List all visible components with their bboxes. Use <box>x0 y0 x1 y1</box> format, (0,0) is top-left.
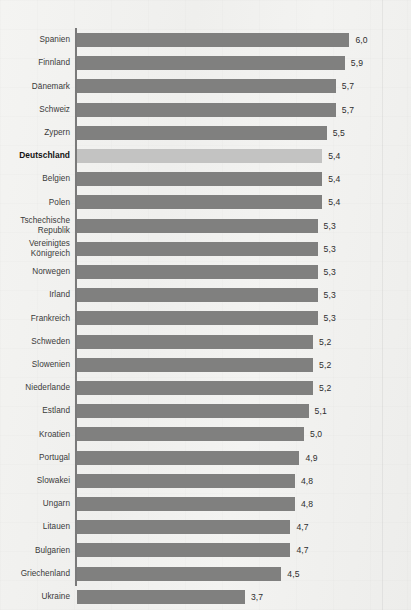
bar-value-label: 5,3 <box>324 214 336 238</box>
bar-category-label: Finnland <box>0 51 70 75</box>
bar-category-label: Spanien <box>0 28 70 52</box>
bar-row: Polen5,4 <box>0 190 411 214</box>
bar-category-label: Norwegen <box>0 260 70 284</box>
bar-category-label-line: Dänemark <box>32 82 70 92</box>
bar-category-label-line: Portugal <box>39 453 70 463</box>
bar <box>77 474 295 488</box>
bar-value-label: 5,4 <box>328 190 340 214</box>
bar <box>77 335 313 349</box>
bar <box>77 103 336 117</box>
bar-category-label-line: Vereinigtes <box>29 239 70 249</box>
bar <box>77 288 318 302</box>
bar-value-label: 4,8 <box>301 492 313 516</box>
bar-category-label: Irland <box>0 283 70 307</box>
bar <box>77 242 318 256</box>
bar-category-label-line: Litauen <box>43 522 70 532</box>
bar-category-label: Kroatien <box>0 422 70 446</box>
bar-category-label-line: Estland <box>42 406 70 416</box>
bar-category-label: Slowakei <box>0 469 70 493</box>
bar <box>77 404 309 418</box>
bar-value-label: 5,3 <box>324 306 336 330</box>
bar <box>77 126 327 140</box>
bar <box>77 567 281 581</box>
bar-category-label-line: Ungarn <box>43 499 70 509</box>
bar-row: Belgien5,4 <box>0 167 411 191</box>
bar-value-label: 5,3 <box>324 237 336 261</box>
bar <box>77 195 322 209</box>
bar-category-label-line: Finnland <box>38 58 70 68</box>
bar-category-label: Polen <box>0 190 70 214</box>
bar-category-label-line: Bulgarien <box>35 546 70 556</box>
bar-category-label-line: Deutschland <box>19 151 70 161</box>
bar-row: Norwegen5,3 <box>0 260 411 284</box>
bar <box>77 311 318 325</box>
bar-row: Ungarn4,8 <box>0 492 411 516</box>
bar-category-label-line: Republik <box>38 226 70 236</box>
bar-row: Slowenien5,2 <box>0 353 411 377</box>
bar-category-label: Schweden <box>0 330 70 354</box>
bar-category-label-line: Norwegen <box>32 267 70 277</box>
bar-category-label: Belgien <box>0 167 70 191</box>
bar-category-label: Bulgarien <box>0 538 70 562</box>
bar-category-label-line: Polen <box>49 198 70 208</box>
bar-category-label-line: Slowenien <box>32 360 70 370</box>
bar <box>77 172 322 186</box>
bar-category-label: Frankreich <box>0 306 70 330</box>
bar-value-label: 5,4 <box>328 167 340 191</box>
bar-value-label: 5,3 <box>324 260 336 284</box>
bar-category-label-line: Zypern <box>44 128 70 138</box>
bar-row: Spanien6,0 <box>0 28 411 52</box>
bar-value-label: 5,1 <box>315 399 327 423</box>
bar-value-label: 5,7 <box>342 98 354 122</box>
bar-value-label: 4,9 <box>305 446 317 470</box>
bar <box>77 219 318 233</box>
bar-value-label: 5,2 <box>319 376 331 400</box>
bar-row: Estland5,1 <box>0 399 411 423</box>
bar <box>77 497 295 511</box>
bar-category-label-line: Irland <box>49 290 70 300</box>
bar-row: Ukraine3,7 <box>0 585 411 609</box>
bar <box>77 590 245 604</box>
bar-category-label: VereinigtesKönigreich <box>0 237 70 261</box>
bar <box>77 520 290 534</box>
bar-category-label: Zypern <box>0 121 70 145</box>
bar-row: Finnland5,9 <box>0 51 411 75</box>
bar-category-label: Dänemark <box>0 74 70 98</box>
bar-value-label: 4,8 <box>301 469 313 493</box>
bar-category-label: Slowenien <box>0 353 70 377</box>
bar-category-label-line: Spanien <box>40 35 70 45</box>
bar-category-label-line: Slowakei <box>37 476 70 486</box>
bar <box>77 358 313 372</box>
bar-category-label-line: Kroatien <box>39 430 70 440</box>
bar-value-label: 5,5 <box>333 121 345 145</box>
bar-category-label: Ukraine <box>0 585 70 609</box>
bar-row: Dänemark5,7 <box>0 74 411 98</box>
bar-category-label: Portugal <box>0 446 70 470</box>
bar-row: TschechischeRepublik5,3 <box>0 214 411 238</box>
bar-value-label: 5,4 <box>328 144 340 168</box>
bar-category-label-line: Niederlande <box>25 383 70 393</box>
bar-row: Deutschland5,4 <box>0 144 411 168</box>
bar-category-label-line: Schweiz <box>39 105 70 115</box>
bar-row: Bulgarien4,7 <box>0 538 411 562</box>
bar-value-label: 5,3 <box>324 283 336 307</box>
bar-row: Niederlande5,2 <box>0 376 411 400</box>
bar-row: VereinigtesKönigreich5,3 <box>0 237 411 261</box>
horizontal-bar-chart: Spanien6,0Finnland5,9Dänemark5,7Schweiz5… <box>0 0 411 610</box>
bar <box>77 56 345 70</box>
bar-row: Kroatien5,0 <box>0 422 411 446</box>
bar-row: Zypern5,5 <box>0 121 411 145</box>
bar-category-label: TschechischeRepublik <box>0 214 70 238</box>
bar-category-label: Ungarn <box>0 492 70 516</box>
bar-value-label: 5,2 <box>319 353 331 377</box>
bar-category-label: Niederlande <box>0 376 70 400</box>
bar-value-label: 5,0 <box>310 422 322 446</box>
bar-value-label: 6,0 <box>355 28 367 52</box>
bar-row: Litauen4,7 <box>0 515 411 539</box>
bar-row: Griechenland4,5 <box>0 562 411 586</box>
bar <box>77 543 290 557</box>
bar-category-label: Griechenland <box>0 562 70 586</box>
bar-category-label: Schweiz <box>0 98 70 122</box>
bar <box>77 451 299 465</box>
bar-row: Schweiz5,7 <box>0 98 411 122</box>
